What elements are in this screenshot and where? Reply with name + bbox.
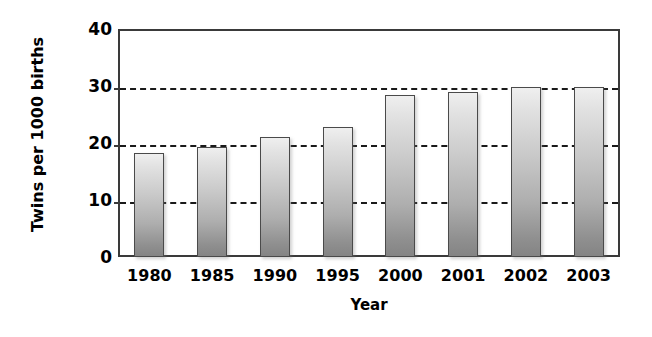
bar — [197, 147, 227, 257]
bar-chart: Twins per 1000 births 010203040 19801985… — [0, 0, 652, 337]
y-tick-label: 0 — [66, 249, 112, 266]
x-tick-label: 2003 — [557, 266, 620, 285]
bar — [385, 95, 415, 257]
x-tick-label: 1980 — [118, 266, 181, 285]
y-tick-label: 20 — [66, 135, 112, 152]
x-axis-title: Year — [118, 296, 620, 314]
x-tick-label: 2002 — [495, 266, 558, 285]
bar — [134, 153, 164, 257]
x-tick-label: 2000 — [369, 266, 432, 285]
y-axis-tick-labels: 010203040 — [60, 0, 112, 337]
bar — [448, 92, 478, 257]
x-tick-label: 1990 — [244, 266, 307, 285]
bar — [511, 87, 541, 257]
y-tick-label: 40 — [66, 21, 112, 38]
bar — [574, 87, 604, 257]
bars-layer — [118, 29, 620, 257]
x-tick-label: 1995 — [306, 266, 369, 285]
y-tick-label: 30 — [66, 78, 112, 95]
x-tick-label: 2001 — [432, 266, 495, 285]
x-tick-label: 1985 — [181, 266, 244, 285]
x-axis-tick-labels: 19801985199019952000200120022003 — [118, 266, 620, 292]
y-tick-label: 10 — [66, 192, 112, 209]
y-axis-title: Twins per 1000 births — [28, 5, 47, 265]
bar — [260, 137, 290, 257]
bar — [323, 127, 353, 257]
